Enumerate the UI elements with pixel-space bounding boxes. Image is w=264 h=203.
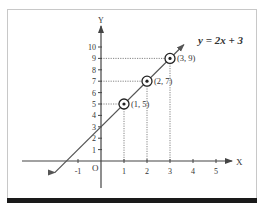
x-axis-label: X: [236, 157, 243, 167]
x-tick-label: 5: [214, 167, 218, 176]
chart: XYO-11234512345678910y = 2x + 3(1, 5)(2,…: [0, 0, 264, 203]
y-tick-label: 9: [92, 54, 96, 63]
y-tick-label: 10: [88, 43, 96, 52]
y-tick-label: 8: [92, 66, 96, 75]
point-dot-2: [168, 57, 171, 60]
point-dot-1: [145, 80, 148, 83]
origin-label: O: [92, 163, 99, 173]
x-tick-label: 3: [168, 167, 172, 176]
line-y-2x-3: [55, 45, 184, 173]
x-tick-label: 1: [122, 167, 126, 176]
x-tick-label: -1: [75, 167, 82, 176]
y-tick-label: 5: [92, 100, 96, 109]
x-tick-label: 4: [191, 167, 195, 176]
y-axis-label: Y: [98, 16, 104, 25]
point-label: (1, 5): [131, 99, 150, 109]
y-tick-label: 7: [92, 77, 96, 86]
y-tick-label: 4: [92, 111, 96, 120]
y-tick-label: 3: [92, 123, 96, 132]
y-tick-label: 6: [92, 89, 96, 98]
x-tick-label: 2: [145, 167, 149, 176]
point-label: (3, 9): [177, 53, 196, 63]
point-dot-0: [122, 102, 125, 105]
point-label: (2, 7): [154, 76, 173, 86]
y-tick-label: 1: [92, 146, 96, 155]
equation-label: y = 2x + 3: [196, 34, 243, 46]
